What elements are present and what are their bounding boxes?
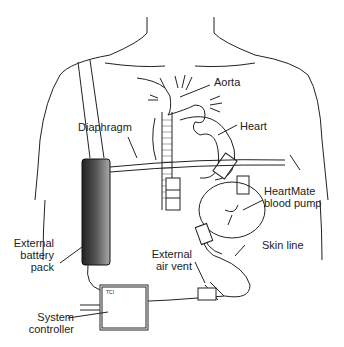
- battery-pack: [82, 159, 110, 265]
- label-battery-3: pack: [10, 261, 54, 273]
- controller-brand: TCI: [106, 290, 114, 295]
- label-heartmate-pump-2: blood pump: [264, 197, 322, 209]
- label-skin-line: Skin line: [262, 239, 304, 251]
- diagram-artwork: [0, 0, 344, 347]
- label-heart: Heart: [240, 120, 267, 132]
- label-battery-2: battery: [10, 249, 54, 261]
- label-aorta: Aorta: [214, 76, 240, 88]
- label-controller-2: controller: [12, 323, 74, 335]
- label-diaphragm: Diaphragm: [78, 121, 132, 133]
- label-battery-1: External: [10, 237, 54, 249]
- heartmate-lvad-diagram: Aorta Heart Diaphragm HeartMate blood pu…: [0, 0, 344, 347]
- label-controller-1: System: [12, 311, 74, 323]
- label-air-vent-1: External: [150, 248, 192, 260]
- label-air-vent-2: air vent: [150, 260, 192, 272]
- label-heartmate-pump-1: HeartMate: [264, 185, 315, 197]
